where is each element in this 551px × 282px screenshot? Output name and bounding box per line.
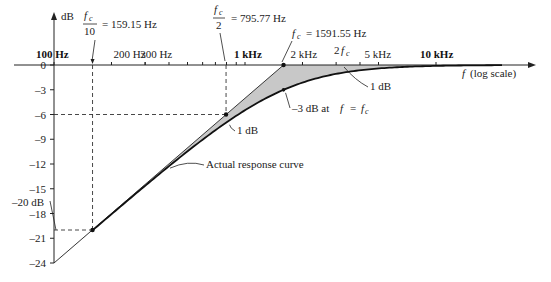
key-point-dot <box>224 112 228 116</box>
svg-text:= 1591.55 Hz: = 1591.55 Hz <box>306 27 366 39</box>
svg-text:c: c <box>365 107 369 116</box>
fc-over-10-label: f c 10 = 159.15 Hz <box>83 9 157 37</box>
one-db-label-b: 1 dB <box>370 80 391 92</box>
svg-text:c: c <box>297 32 301 41</box>
svg-text:2: 2 <box>334 44 340 56</box>
y-tick-label: –12 <box>29 158 47 170</box>
actual-response-label: Actual response curve <box>206 158 304 170</box>
svg-text:c: c <box>346 49 350 58</box>
leader-fc10 <box>92 40 95 61</box>
y-tick-label: –9 <box>34 133 47 145</box>
one-db-label-a: 1 dB <box>237 124 258 136</box>
key-point-dot <box>90 228 94 232</box>
key-point-dot <box>281 63 285 67</box>
leader-minus20 <box>50 201 56 230</box>
x-tick-label: 100 Hz <box>36 48 69 60</box>
y-tick-label: –18 <box>29 208 47 220</box>
svg-text:10: 10 <box>84 25 96 37</box>
leader-actual-curve <box>170 163 204 168</box>
y-tick-label: –21 <box>29 232 47 244</box>
x-tick-label: 2 kHz <box>290 48 317 60</box>
x-tick-label: 300 Hz <box>140 48 172 60</box>
bode-plot: 0–3–6–9–12–15–18–21–24100 Hz200 Hz300 Hz… <box>0 0 551 282</box>
svg-text:c: c <box>219 8 223 17</box>
arrow-fc10-icon <box>91 59 95 64</box>
svg-text:–3 dB at: –3 dB at <box>291 102 329 114</box>
x-axis-arrow-icon <box>528 62 536 68</box>
two-fc-label: 2 f c <box>334 44 350 58</box>
leader-minus3 <box>286 93 290 108</box>
x-axis-label: f <box>462 67 467 79</box>
minus3-db-label: –3 dB at f = f c <box>291 102 369 116</box>
minus3-point-dot <box>282 88 286 92</box>
x-tick-label: 10 kHz <box>420 48 453 60</box>
svg-text:= 795.77 Hz: = 795.77 Hz <box>231 12 286 24</box>
y-tick-label: –6 <box>34 109 47 121</box>
actual-response-curve <box>93 65 502 230</box>
minus-20db-label: –20 dB <box>11 196 44 208</box>
fc-over-2-label: f c 2 = 795.77 Hz <box>213 3 286 31</box>
svg-text:c: c <box>89 14 93 23</box>
y-tick-label: 0 <box>41 59 47 71</box>
y-axis-arrow-icon <box>51 12 57 20</box>
svg-text:f: f <box>340 102 345 114</box>
x-tick-label: 1 kHz <box>234 48 262 60</box>
leader-one-db-a <box>230 125 235 131</box>
svg-text:=: = <box>350 102 356 114</box>
leader-fc2 <box>220 33 225 61</box>
svg-text:= 159.15 Hz: = 159.15 Hz <box>102 18 157 30</box>
y-tick-label: –3 <box>34 84 47 96</box>
fc-label: f c = 1591.55 Hz <box>292 27 366 41</box>
y-axis-label: dB <box>61 10 74 22</box>
y-tick-label: –15 <box>29 183 47 195</box>
x-axis-label-text: (log scale) <box>470 67 516 80</box>
x-tick-label: 5 kHz <box>365 48 392 60</box>
y-tick-label: –24 <box>29 257 47 269</box>
svg-text:2: 2 <box>216 19 222 31</box>
